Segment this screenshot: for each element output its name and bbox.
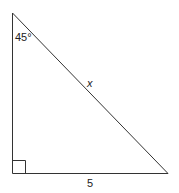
- hypotenuse-label: x: [87, 78, 93, 89]
- triangle: [13, 13, 169, 174]
- angle-label: 45°: [15, 32, 32, 43]
- base-label: 5: [87, 178, 93, 189]
- triangle-figure: [0, 0, 179, 193]
- right-angle-marker: [13, 161, 26, 174]
